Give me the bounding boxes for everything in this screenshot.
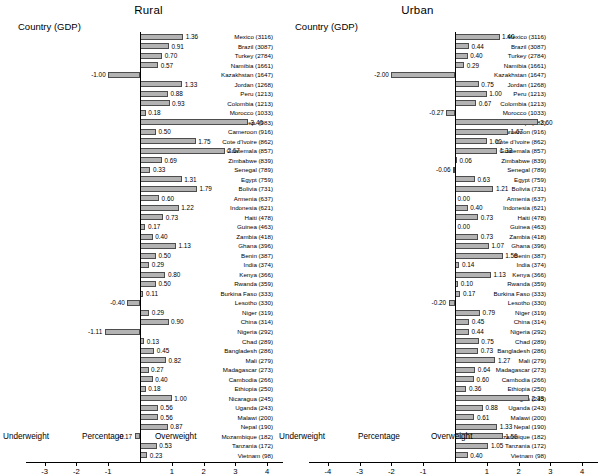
value-label: 1.33 (500, 146, 512, 156)
bar-cell: 0.29 (94, 260, 273, 270)
value-bar (140, 100, 170, 106)
value-label: -1.11 (88, 327, 102, 337)
value-label: 0.50 (158, 251, 170, 261)
chart-row: Niger (319)0.79 (273, 308, 546, 318)
value-label: 0.60 (162, 194, 174, 204)
axis-tick (391, 462, 392, 466)
value-label: 0.56 (160, 413, 172, 423)
axis-tick (423, 462, 424, 466)
value-label: 1.07 (492, 241, 504, 251)
value-label: 1.36 (186, 32, 198, 42)
chart-row: Mali (279)1.27 (273, 356, 546, 366)
bar-cell: 0.64 (371, 365, 546, 375)
value-label: 1.33 (185, 80, 197, 90)
chart-row: Zambia (418)0.73 (273, 232, 546, 242)
value-bar (140, 243, 176, 249)
chart-row: Bangladesh (286)0.73 (273, 346, 546, 356)
bar-cell: -0.06 (371, 165, 546, 175)
chart-row: Kazakhstan (1647)-1.00 (0, 70, 273, 80)
panel-rural: Rural Country (GDP) Mexico (3116)1.36Bra… (0, 0, 273, 456)
chart-row: Namibia (1661)0.57 (0, 61, 273, 71)
chart-row: Haiti (478)0.73 (273, 213, 546, 223)
axis-tick-label: 4 (572, 467, 592, 476)
chart-row: Bangladesh (286)0.45 (0, 346, 273, 356)
chart-row: Peru (1213)1.00 (273, 89, 546, 99)
chart-row: Vietnam (98)0.40 (273, 451, 546, 461)
bar-cell: 0.63 (371, 175, 546, 185)
bar-cell: -2.00 (371, 70, 546, 80)
chart-row: Nepal (190)0.87 (0, 422, 273, 432)
value-label: 0.44 (471, 42, 483, 52)
chart-row: Jordan (1268)1.33 (0, 80, 273, 90)
axis-label-overweight-rural: Overweight (155, 432, 196, 441)
bar-rows-rural: Mexico (3116)1.36Brazil (3087)0.91Turkey… (0, 32, 273, 460)
chart-row: Ghana (396)1.13 (0, 241, 273, 251)
chart-row: Zimbabwe (839)0.06 (273, 156, 546, 166)
axis-tick (487, 462, 488, 466)
bar-cell: -1.11 (94, 327, 273, 337)
value-label: 0.50 (158, 279, 170, 289)
chart-row: Nigeria (292)0.44 (273, 327, 546, 337)
bar-cell: 0.11 (94, 289, 273, 299)
value-label: 1.40 (502, 32, 514, 42)
value-label: 0.50 (158, 127, 170, 137)
chart-row: Brazil (3087)0.91 (0, 42, 273, 52)
value-bar (455, 424, 497, 430)
bar-cell: 0.80 (94, 270, 273, 280)
value-bar (455, 148, 497, 154)
bar-cell: 0.73 (371, 346, 546, 356)
value-bar (140, 176, 182, 182)
chart-row: Armenia (637)0.60 (0, 194, 273, 204)
value-bar (140, 253, 156, 259)
bar-cell: 0.17 (94, 222, 273, 232)
value-bar (455, 243, 489, 249)
chart-row: Uganda (243)0.88 (273, 403, 546, 413)
axis-tick-label: -2 (66, 467, 86, 476)
value-bar (140, 414, 158, 420)
chart-row: India (374)0.14 (273, 260, 546, 270)
bar-cell: 0.53 (94, 441, 273, 451)
value-label: 0.00 (458, 194, 470, 204)
value-label: -0.40 (110, 298, 125, 308)
value-bar (140, 91, 168, 97)
chart-row: Indonesia (621)0.40 (273, 203, 546, 213)
value-bar (455, 253, 503, 259)
value-label: 0.93 (172, 99, 184, 109)
value-bar (455, 176, 475, 182)
bar-cell: 0.40 (371, 51, 546, 61)
chart-row: China (314)0.90 (0, 317, 273, 327)
chart-row: Indonesia (621)1.22 (0, 203, 273, 213)
chart-row: Nicaragua (245)2.33 (273, 394, 546, 404)
bar-cell: 0.18 (94, 108, 273, 118)
value-label: 1.33 (500, 422, 512, 432)
zero-line (140, 32, 141, 462)
value-label: 0.40 (470, 451, 482, 461)
chart-row: Burkina Faso (333)0.11 (0, 289, 273, 299)
bar-cell: 0.40 (371, 203, 546, 213)
value-bar (140, 205, 179, 211)
value-bar (140, 214, 163, 220)
bar-cell: 0.27 (94, 365, 273, 375)
value-bar (140, 424, 168, 430)
value-bar (140, 310, 149, 316)
bar-cell: 1.21 (371, 184, 546, 194)
bar-cell: 0.50 (94, 251, 273, 261)
value-bar (140, 43, 169, 49)
value-label: 0.13 (147, 337, 159, 347)
bar-cell: -0.20 (371, 298, 546, 308)
value-bar (391, 72, 455, 78)
value-label: 0.90 (171, 317, 183, 327)
chart-row: Morocco (1033)-0.27 (273, 108, 546, 118)
bar-cell: 1.05 (371, 441, 546, 451)
chart-row: Rwanda (359)0.10 (273, 279, 546, 289)
bar-cell: 0.50 (94, 127, 273, 137)
value-bar (140, 62, 158, 68)
value-label: 0.40 (470, 203, 482, 213)
axis-tick-label: 1 (477, 467, 497, 476)
value-label: 0.27 (151, 365, 163, 375)
value-label: 1.00 (174, 394, 186, 404)
axis-tick-label: 2 (509, 467, 529, 476)
value-label: 0.45 (472, 317, 484, 327)
value-label: 0.29 (467, 61, 479, 71)
value-bar (140, 395, 172, 401)
